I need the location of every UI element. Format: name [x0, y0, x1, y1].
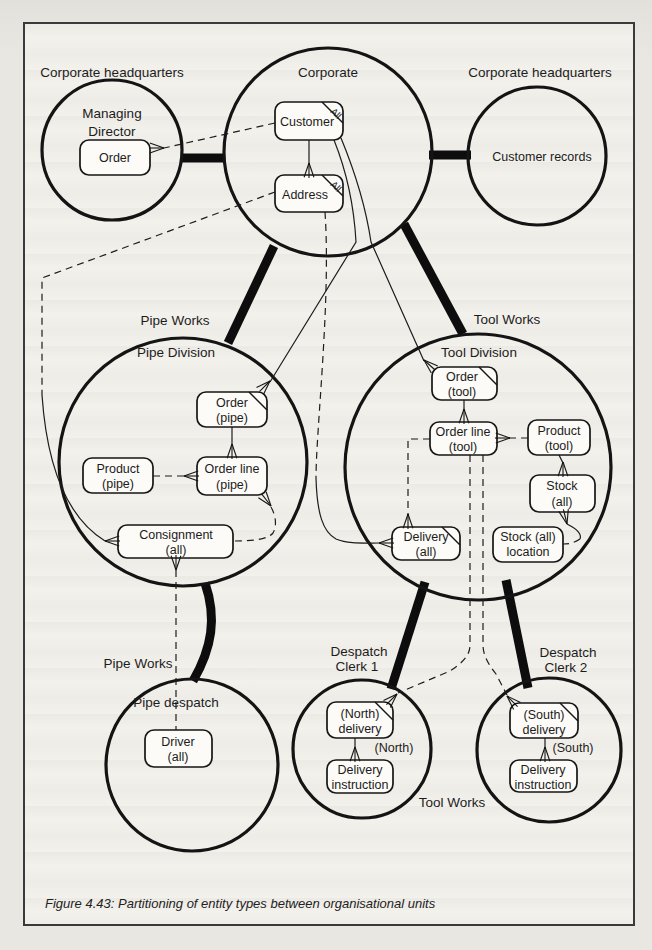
link-corporate-tool [404, 224, 463, 334]
entity-label-driver-2: (all) [168, 750, 189, 764]
entity-label-product-pipe-2: (pipe) [102, 477, 134, 491]
entity-label-stock-1: Stock [546, 479, 578, 493]
link-corporate-pipe [228, 246, 274, 343]
rel-address-consignment-dashed [42, 192, 275, 395]
entity-label-customer: Customer [280, 115, 334, 129]
entity-label-product-pipe-1: Product [96, 462, 140, 476]
entity-label-stock-location-1: Stock (all) [500, 530, 556, 544]
entity-label-instruction2-1: Delivery [520, 763, 566, 777]
region-label-hq-left: Corporate headquarters [40, 65, 184, 80]
entity-label-stock-2: (all) [552, 495, 573, 509]
entity-label-address: Address [282, 188, 328, 202]
unit-name-pipe-despatch: Pipe despatch [133, 695, 219, 710]
region-label-pipe-works-top: Pipe Works [141, 313, 210, 328]
entity-label-instruction1-1: Delivery [337, 763, 383, 777]
diagram-canvas: Corporate headquarters Managing Director… [0, 0, 652, 950]
region-label-tool-works-top: Tool Works [474, 312, 541, 327]
entity-label-stock-location-2: location [506, 545, 549, 559]
unit-name-pipe-division: Pipe Division [137, 345, 215, 360]
entity-label-product-tool-2: (tool) [545, 439, 573, 453]
region-label-clerk2-line2: Clerk 2 [545, 660, 588, 675]
entity-label-order-pipe-2: (pipe) [216, 411, 248, 425]
entity-label-consignment-2: (all) [166, 543, 187, 557]
rel-stock-location-dashed [563, 539, 580, 544]
entity-label-product-tool-1: Product [537, 424, 581, 438]
link-tool-clerk1 [391, 582, 425, 689]
region-label-clerk2-line1: Despatch [539, 645, 596, 660]
rel-producttool-stock [559, 455, 563, 463]
entity-label-driver-1: Driver [161, 735, 194, 749]
entity-label-delivery-all-1: Delivery [403, 530, 449, 544]
entity-boxes [80, 102, 595, 793]
unit-name-md-line2: Director [88, 124, 136, 139]
entity-label-south-delivery-2: delivery [522, 723, 566, 737]
unit-name-md-line1: Managing [82, 106, 141, 121]
entity-label-order-tool-2: (tool) [448, 385, 476, 399]
relationship-label-north: (North) [375, 741, 414, 755]
entity-label-instruction2-2: instruction [515, 778, 572, 792]
entity-label-orderline-pipe-2: (pipe) [216, 478, 248, 492]
rel-orderline-north-delivery [398, 455, 470, 693]
entity-label-delivery-all-2: (all) [416, 545, 437, 559]
region-label-pipe-works-bottom: Pipe Works [104, 656, 173, 671]
entity-label-north-delivery-1: (North) [341, 707, 380, 721]
rel-orderline-consignment [233, 507, 275, 541]
rel-orderline-delivery [408, 439, 430, 515]
entity-label-customer-records: Customer records [492, 150, 591, 164]
region-label-tool-works-bottom: Tool Works [419, 795, 486, 810]
circle-despatch-clerk-2 [477, 678, 621, 822]
region-label-clerk1-line1: Despatch [330, 644, 387, 659]
relationship-label-south: (South) [553, 741, 594, 755]
crows-foot [149, 143, 164, 153]
entity-label-consignment-1: Consignment [139, 528, 213, 542]
unit-name-corporate: Corporate [298, 65, 358, 80]
link-pipe-despatch [193, 583, 211, 681]
entity-label-order-pipe-1: Order [216, 396, 248, 410]
entity-label-orderline-tool-2: (tool) [449, 440, 477, 454]
unit-name-tool-division: Tool Division [441, 345, 517, 360]
relationship-lines [42, 123, 580, 748]
entity-label-order-md: Order [99, 151, 131, 165]
entity-label-orderline-tool-1: Order line [436, 425, 491, 439]
rel-customer-order-tool [341, 138, 424, 361]
entity-label-order-tool-1: Order [446, 370, 478, 384]
region-label-clerk1-line2: Clerk 1 [336, 659, 379, 674]
rel-orderline-south-delivery [483, 455, 507, 695]
region-label-hq-right: Corporate headquarters [468, 65, 612, 80]
rel-stock-location-solid [567, 524, 580, 539]
rel-address-delivery-dashed [316, 212, 326, 478]
entity-label-south-delivery-1: (South) [524, 708, 565, 722]
entity-label-north-delivery-2: delivery [338, 722, 382, 736]
figure-caption: Figure 4.43: Partitioning of entity type… [45, 896, 435, 911]
entity-label-instruction1-2: instruction [332, 778, 389, 792]
entity-label-orderline-pipe-1: Order line [205, 462, 260, 476]
